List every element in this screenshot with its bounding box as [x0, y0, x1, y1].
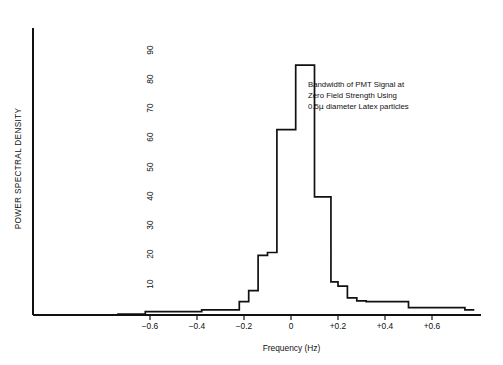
data-curve-pmt-spectrum — [117, 65, 474, 314]
annotation-line-2: Zero Field Strength Using — [308, 90, 409, 101]
x-tick-label: −0.2 — [224, 321, 264, 331]
x-tick-label: −0.4 — [177, 321, 217, 331]
x-tick-label: +0.4 — [365, 321, 405, 331]
y-tick-label: 50 — [145, 157, 155, 177]
annotation-line-3-prefix: 0.5 — [308, 102, 319, 111]
y-tick-label: 20 — [145, 244, 155, 264]
y-axis-title: POWER SPECTRAL DENSITY — [14, 89, 23, 249]
x-tick-label: +0.2 — [318, 321, 358, 331]
chart-figure: POWER SPECTRAL DENSITY 10203040506070809… — [0, 0, 503, 365]
y-tick-label: 60 — [145, 127, 155, 147]
x-tick-label: +0.6 — [412, 321, 452, 331]
annotation-line-3-suffix: diameter Latex particles — [324, 102, 409, 111]
y-tick-label: 40 — [145, 186, 155, 206]
annotation-line-3: 0.5μ diameter Latex particles — [308, 101, 409, 112]
x-axis-title: Frequency (Hz) — [0, 343, 503, 353]
y-tick-label: 90 — [145, 40, 155, 60]
x-tick-label: −0.6 — [130, 321, 170, 331]
y-tick-label: 10 — [145, 274, 155, 294]
y-tick-label: 80 — [145, 69, 155, 89]
y-tick-label: 30 — [145, 215, 155, 235]
chart-annotation: Bandwidth of PMT Signal at Zero Field St… — [308, 79, 409, 113]
plot-area — [0, 0, 503, 365]
annotation-line-1: Bandwidth of PMT Signal at — [308, 79, 409, 90]
y-tick-label: 70 — [145, 98, 155, 118]
x-tick-label: 0 — [271, 321, 311, 331]
